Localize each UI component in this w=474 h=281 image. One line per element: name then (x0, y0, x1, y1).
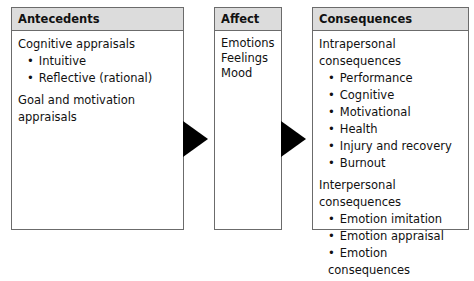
list-item: Motivational (319, 104, 462, 121)
group-label: Intrapersonal consequences (319, 36, 462, 70)
group-label: Interpersonal consequences (319, 177, 462, 211)
list-item: Emotion imitation (319, 211, 462, 228)
consequences-header: Consequences (313, 8, 468, 31)
list-item: Emotion consequences (319, 245, 462, 279)
list-item: Injury and recovery (319, 138, 462, 155)
list-item: Reflective (rational) (18, 70, 177, 87)
arrow-right-icon (183, 121, 208, 157)
antecedents-box: Antecedents Cognitive appraisals Intuiti… (11, 7, 184, 230)
list-item: Emotions (221, 36, 275, 51)
group-label: Goal and motivation appraisals (18, 92, 177, 126)
affect-header: Affect (215, 8, 281, 31)
arrow-right-icon (281, 121, 306, 157)
list-item: Health (319, 121, 462, 138)
list-item: Feelings (221, 51, 275, 66)
consequences-box: Consequences Intrapersonal consequences … (312, 7, 469, 230)
list-item: Emotion appraisal (319, 228, 462, 245)
affect-box: Affect Emotions Feelings Mood (214, 7, 282, 230)
list-item: Mood (221, 66, 275, 81)
list-item: Cognitive (319, 87, 462, 104)
antecedents-header: Antecedents (12, 8, 183, 31)
list-item: Burnout (319, 155, 462, 172)
list-item: Performance (319, 70, 462, 87)
group-label: Cognitive appraisals (18, 36, 177, 53)
list-item: Intuitive (18, 53, 177, 70)
